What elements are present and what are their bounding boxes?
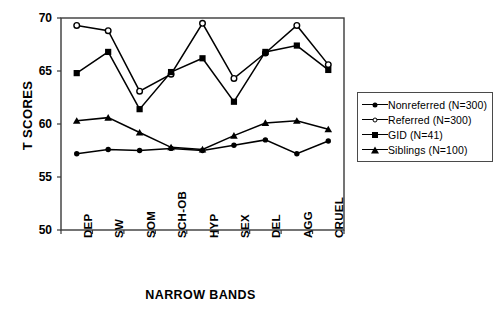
chart-legend: Nonreferred (N=300)Referred (N=300)GID (… <box>357 92 493 162</box>
data-point-marker <box>231 143 236 148</box>
data-point-marker <box>74 70 80 76</box>
legend-label: Nonreferred (N=300) <box>388 99 487 111</box>
series-line <box>77 118 329 150</box>
legend-marker-icon <box>362 113 388 127</box>
x-tick-label-som: SOM <box>145 211 157 238</box>
data-point-marker <box>325 67 331 73</box>
data-point-marker <box>200 21 206 27</box>
series-line <box>77 46 329 110</box>
x-tick-label-del: DEL <box>270 214 282 238</box>
x-tick-label-cruel: CRUEL <box>333 197 345 238</box>
data-point-marker <box>136 129 144 136</box>
x-axis-title: NARROW BANDS <box>58 288 343 302</box>
legend-item-2: GID (N=41) <box>362 127 487 142</box>
x-tick-label-agg: AGG <box>302 211 314 238</box>
data-point-marker <box>168 69 174 75</box>
legend-marker-icon <box>362 128 388 142</box>
data-point-marker <box>105 147 110 152</box>
x-axis-tick-labels: DEPSWSOMSCH-OBHYPSEXDELAGGCRUEL <box>0 236 360 296</box>
data-point-marker <box>74 23 80 29</box>
data-point-marker <box>262 49 268 55</box>
data-point-marker <box>199 55 205 61</box>
data-point-marker <box>294 151 299 156</box>
legend-item-1: Referred (N=300) <box>362 112 487 127</box>
data-point-marker <box>231 99 237 105</box>
legend-marker-icon <box>362 98 388 112</box>
data-point-marker <box>105 49 111 55</box>
x-tick-label-dep: DEP <box>82 213 94 238</box>
data-point-marker <box>294 42 300 48</box>
legend-label: Referred (N=300) <box>388 114 472 126</box>
legend-item-3: Siblings (N=100) <box>362 142 487 157</box>
legend-item-0: Nonreferred (N=300) <box>362 97 487 112</box>
data-point-marker <box>294 23 300 29</box>
data-point-marker <box>137 88 143 94</box>
data-point-marker <box>263 137 268 142</box>
x-tick-label-sw: SW <box>113 219 125 238</box>
data-point-marker <box>105 28 111 34</box>
legend-marker-icon <box>362 143 388 157</box>
data-point-marker <box>325 62 331 68</box>
data-point-marker <box>231 76 237 82</box>
data-point-marker <box>137 106 143 112</box>
x-tick-label-sex: SEX <box>239 214 251 238</box>
data-point-marker <box>137 148 142 153</box>
data-point-marker <box>326 138 331 143</box>
x-tick-label-sch-ob: SCH-OB <box>176 191 188 238</box>
x-tick-label-hyp: HYP <box>208 213 220 238</box>
series-2 <box>74 42 332 112</box>
series-3 <box>73 114 332 152</box>
legend-label: Siblings (N=100) <box>388 144 468 156</box>
legend-label: GID (N=41) <box>388 129 443 141</box>
data-point-marker <box>74 151 79 156</box>
